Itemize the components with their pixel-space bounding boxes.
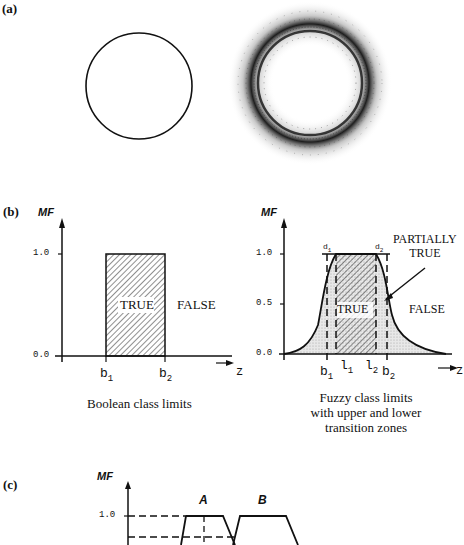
crisp-circle <box>86 33 192 139</box>
fuzzy-true-label: TRUE <box>337 302 368 317</box>
fuzzy-top-mark-d1: d1 <box>323 242 331 254</box>
boolean-false-label: FALSE <box>177 297 216 313</box>
partially-true-annotation: PARTIALLYTRUE <box>393 232 457 260</box>
fuzzy-ytick-1: 1.0 <box>256 248 272 258</box>
boolean-ylabel: MF <box>38 206 54 218</box>
fuzzy-xtick-l2: l2 <box>365 358 378 376</box>
fuzzy-top-mark-d2: d2 <box>375 242 383 254</box>
fuzzy-ytick-0: 0.0 <box>256 348 272 358</box>
overlap-plot <box>124 481 298 545</box>
overlap-ylabel: MF <box>97 470 113 482</box>
figure-canvas <box>0 0 464 545</box>
set-b-label: B <box>258 493 267 507</box>
fuzzy-caption: Fuzzy class limits with upper and lower … <box>310 390 422 435</box>
set-a-label: A <box>199 493 208 507</box>
boolean-xtick-b1: b1 <box>100 366 113 384</box>
boolean-ytick-0: 0.0 <box>33 350 49 360</box>
overlap-ytick-1: 1.0 <box>99 510 115 520</box>
fuzzy-ylabel: MF <box>261 206 277 218</box>
boolean-true-label: TRUE <box>120 297 154 313</box>
fuzzy-circle <box>228 1 392 165</box>
boolean-plot <box>55 218 232 362</box>
fuzzy-xlabel: z <box>456 364 463 378</box>
panel-label-c: (c) <box>3 477 17 493</box>
fuzzy-xtick-b1: b1 <box>320 364 333 382</box>
boolean-xtick-b2: b2 <box>159 366 172 384</box>
boolean-xlabel: z <box>236 365 243 379</box>
fuzzy-ytick-05: 0.5 <box>256 298 272 308</box>
panel-label-a: (a) <box>2 1 17 17</box>
boolean-ytick-1: 1.0 <box>33 248 49 258</box>
boolean-caption: Boolean class limits <box>87 396 192 412</box>
fuzzy-xtick-l1: l1 <box>340 358 353 376</box>
fuzzy-xtick-b2: b2 <box>382 364 395 382</box>
panel-label-b: (b) <box>3 204 19 220</box>
fuzzy-false-label: FALSE <box>409 302 445 317</box>
